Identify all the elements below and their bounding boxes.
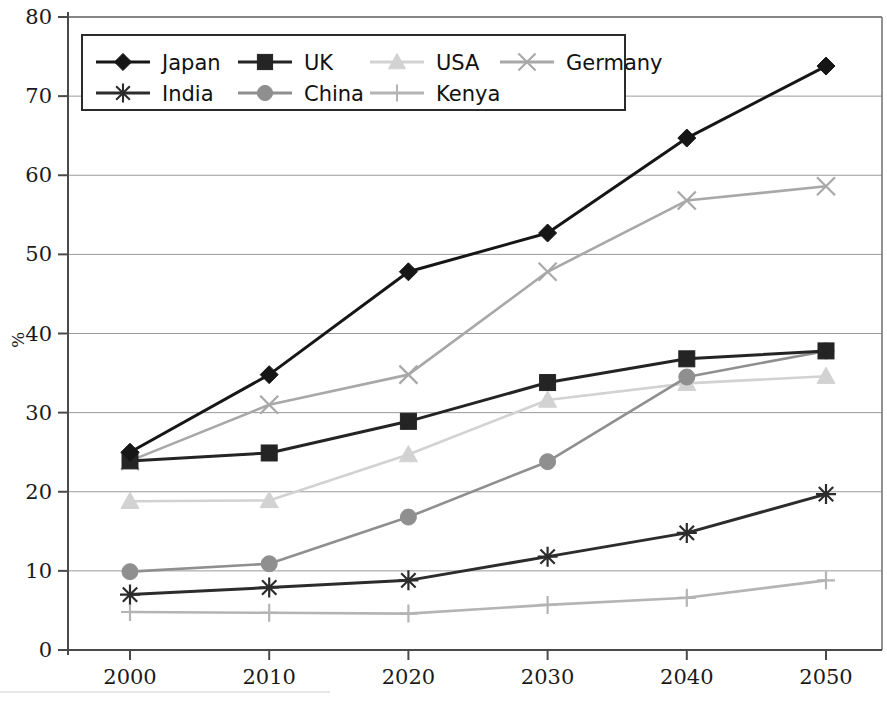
y-axis-title: % xyxy=(8,332,28,348)
x-tick-label: 2010 xyxy=(242,665,295,689)
x-tick-label: 2020 xyxy=(382,665,435,689)
marker-square xyxy=(261,445,277,461)
marker-circle xyxy=(679,369,695,385)
x-tick-label: 2050 xyxy=(799,665,852,689)
marker-circle xyxy=(122,564,138,580)
marker-circle xyxy=(400,509,416,525)
marker-asterisk xyxy=(538,547,558,567)
x-tick-label: 2000 xyxy=(103,665,156,689)
y-tick-label: 30 xyxy=(25,401,52,425)
y-tick-label: 40 xyxy=(25,322,52,346)
marker-asterisk xyxy=(816,484,836,504)
marker-asterisk xyxy=(114,84,133,103)
y-tick-label: 50 xyxy=(25,242,52,266)
y-tick-label: 10 xyxy=(25,559,52,583)
marker-square xyxy=(257,54,272,69)
marker-square xyxy=(540,375,556,391)
marker-square xyxy=(679,351,695,367)
legend-label: USA xyxy=(436,51,480,75)
marker-square xyxy=(818,343,834,359)
y-tick-label: 80 xyxy=(25,5,52,29)
chart-legend: JapanUKUSAGermanyIndiaChinaKenya xyxy=(82,35,663,110)
marker-circle xyxy=(261,556,277,572)
x-tick-label: 2040 xyxy=(660,665,713,689)
legend-label: Kenya xyxy=(436,82,500,106)
chart-container: 01020304050607080 2000201020202030204020… xyxy=(0,0,887,704)
x-tick-label: 2030 xyxy=(521,665,574,689)
marker-asterisk xyxy=(259,577,279,597)
line-chart: 01020304050607080 2000201020202030204020… xyxy=(0,0,887,704)
legend-label: UK xyxy=(304,51,334,75)
legend-label: India xyxy=(162,82,214,106)
legend-label: Japan xyxy=(160,51,221,75)
legend-label: Germany xyxy=(566,51,663,75)
y-tick-label: 0 xyxy=(39,638,52,662)
y-tick-label: 70 xyxy=(25,84,52,108)
legend-label: China xyxy=(304,82,364,106)
marker-asterisk xyxy=(677,523,697,543)
marker-asterisk xyxy=(120,585,140,605)
marker-circle xyxy=(257,85,272,100)
y-tick-label: 60 xyxy=(25,163,52,187)
marker-asterisk xyxy=(398,570,418,590)
marker-circle xyxy=(540,454,556,470)
y-tick-label: 20 xyxy=(25,480,52,504)
marker-square xyxy=(400,413,416,429)
